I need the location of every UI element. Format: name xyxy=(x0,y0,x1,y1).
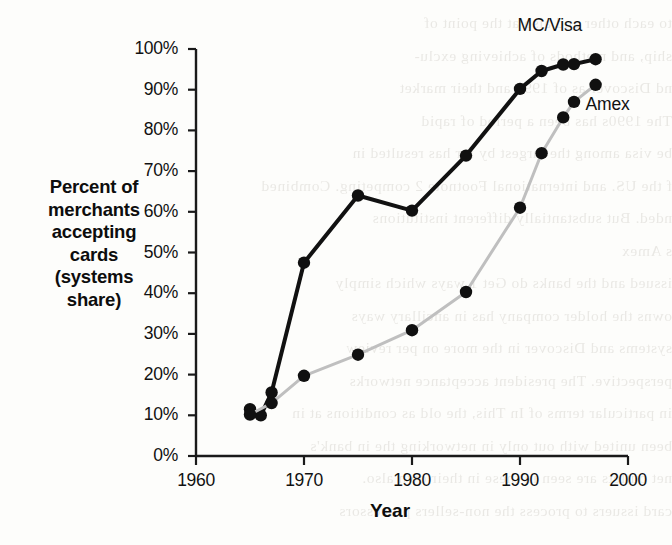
data-point xyxy=(352,189,364,201)
data-point xyxy=(589,79,601,91)
data-point xyxy=(352,349,364,361)
data-point xyxy=(298,257,310,269)
data-point xyxy=(298,370,310,382)
data-point xyxy=(589,53,601,65)
data-point xyxy=(568,58,580,70)
data-point xyxy=(460,286,472,298)
plot-area xyxy=(0,0,672,545)
data-point xyxy=(460,149,472,161)
data-point xyxy=(244,408,256,420)
series-line-amex xyxy=(250,85,596,415)
data-point xyxy=(557,58,569,70)
data-point xyxy=(557,111,569,123)
data-point xyxy=(514,202,526,214)
data-point xyxy=(568,96,580,108)
data-point xyxy=(265,397,277,409)
data-point xyxy=(514,83,526,95)
data-point xyxy=(406,324,418,336)
chart-figure: Percent of merchants accepting cards (sy… xyxy=(0,0,672,545)
data-point xyxy=(265,386,277,398)
series-line-mc-visa xyxy=(250,59,596,415)
series-lines xyxy=(244,53,602,421)
data-point xyxy=(406,204,418,216)
data-point xyxy=(535,65,547,77)
data-point xyxy=(535,147,547,159)
